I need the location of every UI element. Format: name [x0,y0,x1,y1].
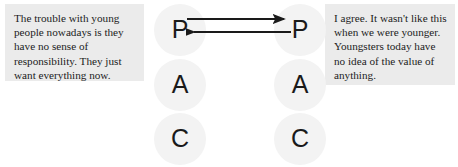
ego-state-letter: A [172,72,189,97]
left-comment-box: The trouble with young people nowadays i… [5,4,144,81]
ego-state-letter: P [292,17,309,42]
ego-state-left-adult: A [154,59,206,111]
ego-state-letter: A [292,72,309,97]
ego-state-right-adult: A [274,59,326,111]
ego-state-letter: C [291,126,309,151]
ego-state-letter: C [171,126,189,151]
ego-state-left-child: C [154,113,206,165]
right-comment-box: I agree. It wasn't like this when we wer… [325,4,455,85]
transaction-arrow-group [186,14,292,40]
ego-state-right-child: C [274,113,326,165]
pac-diagram-canvas: The trouble with young people nowadays i… [0,0,458,167]
